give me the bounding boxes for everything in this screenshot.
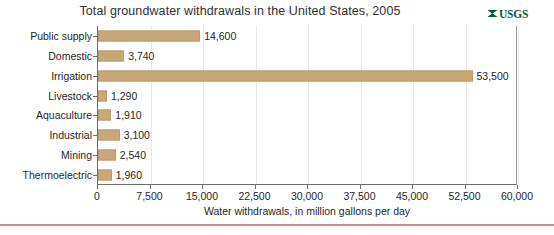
bar[interactable] [98, 170, 112, 181]
bar-row: Mining2,540 [98, 145, 516, 165]
bottom-divider [0, 224, 554, 226]
bar[interactable] [98, 50, 124, 61]
bar-value-label: 1,290 [111, 90, 137, 102]
category-label: Aquaculture [36, 109, 92, 121]
x-axis-tick [360, 185, 361, 189]
x-axis-tick [465, 185, 466, 189]
bar-value-label: 3,100 [124, 129, 150, 141]
x-axis-tick [517, 185, 518, 189]
x-axis-tick-label: 22,500 [238, 190, 270, 202]
x-axis-tick-label: 52,500 [448, 190, 480, 202]
x-axis-tick [202, 185, 203, 189]
x-axis-tick-label: 7,500 [136, 190, 162, 202]
chart-title: Total groundwater withdrawals in the Uni… [0, 4, 480, 18]
x-axis-tick [412, 185, 413, 189]
bar[interactable] [98, 70, 473, 81]
x-axis-title: Water withdrawals, in million gallons pe… [97, 205, 517, 217]
chart-figure: Total groundwater withdrawals in the Uni… [0, 0, 554, 235]
category-label: Thermoelectric [23, 169, 92, 181]
x-axis-tick [97, 185, 98, 189]
bar-row: Industrial3,100 [98, 125, 516, 145]
bar-value-label: 3,740 [128, 50, 154, 62]
usgs-logo-text: USGS [499, 8, 528, 20]
x-axis-tick-label: 30,000 [291, 190, 323, 202]
x-axis-tick-label: 60,000 [501, 190, 533, 202]
bar[interactable] [98, 150, 116, 161]
plot-area: Public supply14,600Domestic3,740Irrigati… [97, 26, 517, 185]
x-axis-tick [150, 185, 151, 189]
x-axis-tick [255, 185, 256, 189]
bar-value-label: 1,910 [115, 109, 141, 121]
bar[interactable] [98, 110, 111, 121]
bar-row: Irrigation53,500 [98, 66, 516, 86]
x-axis-tick-label: 0 [94, 190, 100, 202]
bar-row: Public supply14,600 [98, 26, 516, 46]
usgs-logo: USGS [487, 5, 528, 23]
x-axis-tick-label: 37,500 [343, 190, 375, 202]
bar-value-label: 53,500 [477, 70, 509, 82]
bar[interactable] [98, 30, 200, 41]
x-axis-tick-label: 15,000 [186, 190, 218, 202]
gridline [518, 26, 519, 184]
category-label: Public supply [30, 30, 92, 42]
category-label: Mining [61, 149, 92, 161]
x-axis-ticks: 07,50015,00022,50030,00037,50045,00052,5… [97, 185, 517, 205]
bar[interactable] [98, 90, 107, 101]
usgs-wave-icon [487, 5, 498, 23]
x-axis-tick-label: 45,000 [396, 190, 428, 202]
bar-value-label: 14,600 [204, 30, 236, 42]
category-label: Industrial [49, 129, 92, 141]
bar-row: Thermoelectric1,960 [98, 165, 516, 185]
x-axis-tick [307, 185, 308, 189]
bar-value-label: 2,540 [120, 149, 146, 161]
bar-value-label: 1,960 [116, 169, 142, 181]
bar-row: Domestic3,740 [98, 46, 516, 66]
category-label: Livestock [48, 90, 92, 102]
bar-rows: Public supply14,600Domestic3,740Irrigati… [98, 26, 516, 184]
category-label: Irrigation [51, 70, 92, 82]
bar[interactable] [98, 130, 120, 141]
bar-row: Livestock1,290 [98, 86, 516, 106]
bar-row: Aquaculture1,910 [98, 106, 516, 126]
category-label: Domestic [48, 50, 92, 62]
